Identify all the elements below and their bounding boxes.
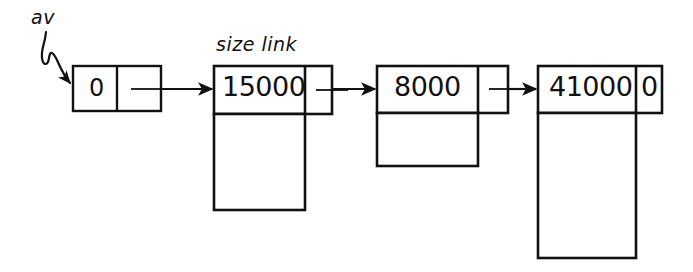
block-8000-body xyxy=(377,113,478,166)
block-8000-size-value: 8000 xyxy=(394,73,461,100)
av-node xyxy=(73,66,161,111)
av-pointer-arrow xyxy=(42,32,70,83)
block-15000-body xyxy=(214,114,305,210)
block-41000-size-value: 41000 xyxy=(549,73,632,100)
av-node-size-value: 0 xyxy=(89,76,104,100)
block-41000-link-value: 0 xyxy=(641,73,658,100)
size-link-label: size link xyxy=(216,33,297,55)
av-label: av xyxy=(31,6,55,28)
block-41000-body xyxy=(538,113,636,258)
block-15000-size-value: 15000 xyxy=(222,73,305,100)
linked-list-diagram xyxy=(0,0,693,272)
